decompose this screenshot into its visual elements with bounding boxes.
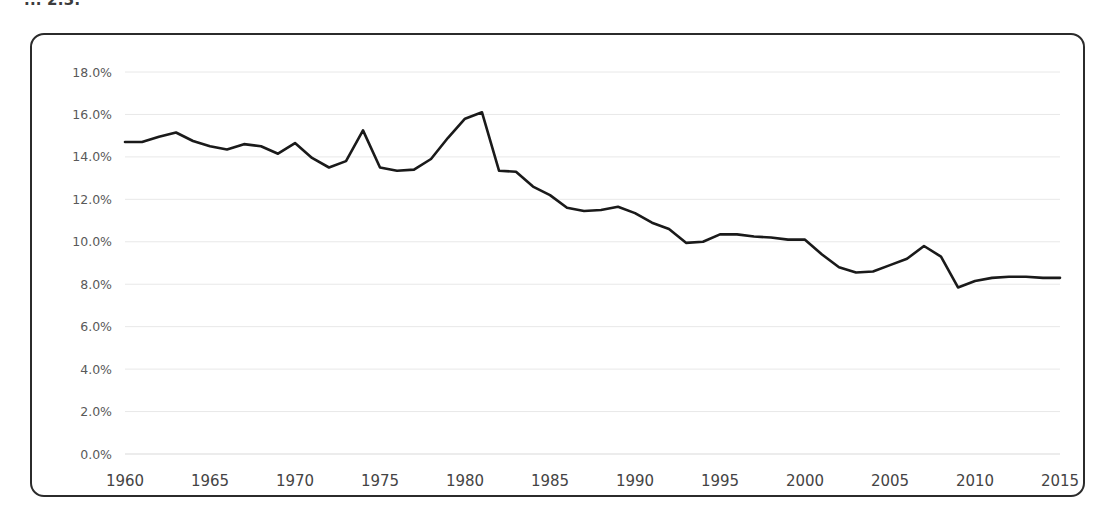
y-axis-tick-label: 14.0% [72, 149, 112, 164]
x-axis-tick-label: 2000 [786, 472, 824, 490]
y-axis-tick-label: 10.0% [72, 234, 112, 249]
x-axis-tick-label: 1975 [361, 472, 399, 490]
x-axis-tick-label: 1965 [191, 472, 229, 490]
x-axis-tick-label: 1995 [701, 472, 739, 490]
x-axis-tick-label: 2010 [956, 472, 994, 490]
x-axis-tick-labels: 1960196519701975198019851990199520002005… [106, 472, 1079, 490]
x-axis-tick-label: 1985 [531, 472, 569, 490]
x-axis-tick-label: 1960 [106, 472, 144, 490]
chart-frame: 0.0%2.0%4.0%6.0%8.0%10.0%12.0%14.0%16.0%… [30, 33, 1085, 497]
y-axis-tick-label: 18.0% [72, 65, 112, 80]
y-axis-tick-label: 8.0% [80, 277, 112, 292]
line-chart-svg: 0.0%2.0%4.0%6.0%8.0%10.0%12.0%14.0%16.0%… [32, 35, 1083, 495]
data-series-line [125, 112, 1060, 287]
x-axis-tick-label: 1970 [276, 472, 314, 490]
y-axis-tick-label: 6.0% [80, 319, 112, 334]
x-axis-tick-label: 2015 [1041, 472, 1079, 490]
x-axis-tick-label: 2005 [871, 472, 909, 490]
y-axis-tick-label: 12.0% [72, 192, 112, 207]
x-axis-tick-label: 1980 [446, 472, 484, 490]
gridlines-group [125, 72, 1060, 454]
y-axis-tick-label: 2.0% [80, 404, 112, 419]
chart-plot-area: 0.0%2.0%4.0%6.0%8.0%10.0%12.0%14.0%16.0%… [32, 35, 1083, 495]
y-axis-tick-label: 4.0% [80, 362, 112, 377]
x-axis-tick-label: 1990 [616, 472, 654, 490]
y-axis-tick-label: 0.0% [80, 447, 112, 462]
y-axis-tick-labels: 0.0%2.0%4.0%6.0%8.0%10.0%12.0%14.0%16.0%… [72, 65, 112, 462]
figure-caption-clipped: ... 2.3: [24, 0, 81, 9]
y-axis-tick-label: 16.0% [72, 107, 112, 122]
